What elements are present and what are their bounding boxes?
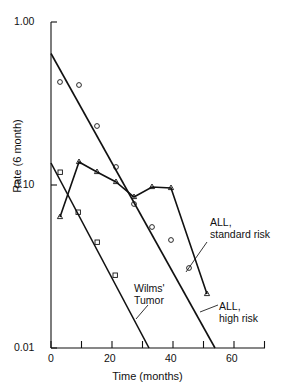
- annotation-wilms-tumor: Wilms' Tumor: [134, 282, 165, 306]
- annotation-line-2: standard risk: [210, 228, 270, 240]
- y-axis-ticks: [51, 22, 57, 348]
- y-tick-label-top: 1.00: [14, 15, 34, 27]
- markers-wilms-tumor: [58, 170, 117, 277]
- markers-all-high-risk: [58, 80, 192, 271]
- leader-line-all-high-risk: [200, 305, 218, 312]
- annotation-line-2: high risk: [219, 312, 258, 324]
- data-point: [95, 124, 100, 129]
- data-point: [150, 225, 155, 230]
- line-all-standard-risk: [60, 162, 207, 294]
- data-point: [58, 170, 62, 174]
- data-point: [169, 238, 174, 243]
- x-axis-ticks: [51, 341, 265, 348]
- annotation-all-standard-risk: ALL, standard risk: [210, 216, 270, 240]
- x-axis-title: Time (months): [0, 370, 295, 382]
- fit-line-wilms-tumor: [51, 163, 149, 348]
- figure: 1.00 0.10 0.01 0 20 40 60 Time (months) …: [0, 0, 295, 392]
- x-tick-label-60: 60: [226, 352, 238, 364]
- markers-all-standard-risk: [57, 159, 209, 296]
- x-tick-label-20: 20: [104, 352, 116, 364]
- series-all-high-risk: [51, 54, 215, 349]
- annotation-line-1: ALL,: [219, 300, 258, 312]
- data-point: [113, 273, 117, 277]
- data-point: [77, 83, 82, 88]
- y-tick-label-bottom: 0.01: [14, 341, 34, 353]
- annotation-line-2: Tumor: [134, 294, 165, 306]
- annotation-line-1: ALL,: [210, 216, 270, 228]
- leader-line-wilms-tumor: [136, 305, 148, 319]
- leader-line-all-standard-risk: [186, 242, 207, 272]
- x-tick-label-0: 0: [48, 352, 54, 364]
- fit-line-all-high-risk: [51, 54, 215, 349]
- annotation-all-high-risk: ALL, high risk: [219, 300, 258, 324]
- series-wilms-tumor: [51, 163, 149, 348]
- data-point: [58, 80, 63, 85]
- y-axis-title: Rate (6 month): [11, 106, 23, 206]
- series-all-standard-risk: [57, 159, 209, 296]
- data-point: [95, 240, 99, 244]
- chart-canvas: [0, 0, 295, 392]
- x-tick-label-40: 40: [165, 352, 177, 364]
- annotation-line-1: Wilms': [134, 282, 165, 294]
